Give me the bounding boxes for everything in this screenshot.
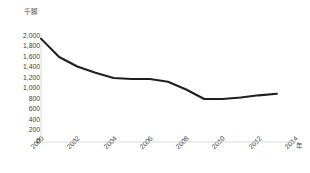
x-axis-unit-label: 年 [296, 140, 303, 150]
line-chart: 千脚 2,0001,8001,6001,4001,2001,0008006004… [0, 0, 310, 173]
plot-area [0, 0, 310, 173]
data-series-line [41, 39, 277, 99]
